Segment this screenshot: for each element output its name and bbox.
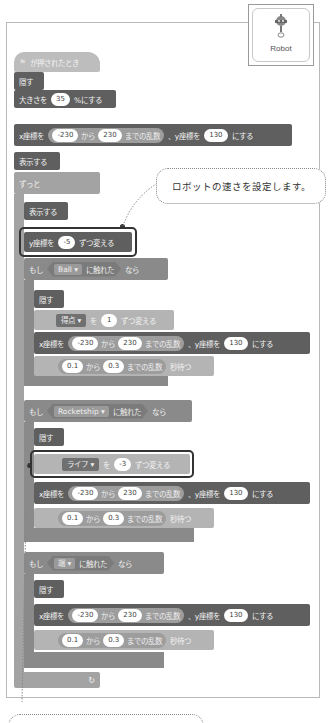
touching-edge-condition[interactable]: 端 ▾ に触れた <box>47 556 114 571</box>
goto-random-block-if3[interactable]: x座標を -230 から 230 までの乱数 、y座標を 130 にする <box>34 604 310 626</box>
random-to-input[interactable]: 230 <box>118 487 141 500</box>
random-reporter[interactable]: 0.1 から 0.3 までの乱数 <box>58 511 166 526</box>
if-rocketship-block[interactable]: もし Rocketship ▾ に触れた なら <box>24 400 192 422</box>
hide-block-if1[interactable]: 隠す <box>34 290 64 308</box>
var-dropdown-score[interactable]: 得点 ▾ <box>56 314 86 327</box>
wait-random-block-if2[interactable]: 0.1 から 0.3 までの乱数 秒待つ <box>34 508 214 528</box>
callout-bottom-partial <box>8 714 204 723</box>
goto-y-input[interactable]: 130 <box>204 129 227 142</box>
callout-speed-note: ロボットの速さを設定します。 <box>156 168 326 204</box>
random-made: までの乱数 <box>145 488 180 499</box>
goto-random-block-if1[interactable]: x座標を -230 から 230 までの乱数 、y座標を 130 にする <box>34 332 310 354</box>
random-made: までの乱数 <box>125 130 160 141</box>
sprite-card[interactable]: Robot <box>248 4 314 66</box>
callout-connector-bottom <box>10 462 30 722</box>
goto-y-label: 、y座標を <box>168 130 200 141</box>
touching-target-dropdown[interactable]: Rocketship ▾ <box>54 406 109 417</box>
loop-arrow-icon: ↻ <box>88 676 95 685</box>
random-reporter[interactable]: 0.1 から 0.3 までの乱数 <box>58 633 166 648</box>
show-block[interactable]: 表示する <box>14 152 60 170</box>
size-input[interactable]: 35 <box>51 93 70 106</box>
goto-random-block-if2[interactable]: x座標を -230 から 230 までの乱数 、y座標を 130 にする <box>34 482 310 504</box>
goto-x-label: x座標を <box>39 488 64 499</box>
show-block-2[interactable]: 表示する <box>24 202 68 220</box>
change-score-input[interactable]: 1 <box>101 314 117 327</box>
goto-y-label: 、y座標を <box>188 610 220 621</box>
callout-text: ロボットの速さを設定します。 <box>172 179 311 193</box>
touching-rocketship-condition[interactable]: Rocketship ▾ に触れた <box>47 404 148 419</box>
goto-suffix: にする <box>252 488 273 499</box>
random-reporter[interactable]: 0.1 から 0.3 までの乱数 <box>58 359 166 374</box>
random-kara: から <box>81 130 95 141</box>
forever-label: ずっと <box>19 178 40 189</box>
goto-y-input[interactable]: 130 <box>224 609 247 622</box>
wait-from-input[interactable]: 0.1 <box>62 512 83 525</box>
random-kara: から <box>101 488 115 499</box>
random-to-input[interactable]: 230 <box>98 129 121 142</box>
show-label: 表示する <box>19 156 47 167</box>
touching-label: に触れた <box>113 406 141 417</box>
random-reporter[interactable]: -230 から 230 までの乱数 <box>68 486 183 501</box>
if-ball-arm <box>24 280 34 372</box>
random-made: までの乱数 <box>127 635 162 646</box>
random-to-input[interactable]: 230 <box>118 337 141 350</box>
random-from-input[interactable]: -230 <box>72 337 98 350</box>
goto-y-label: 、y座標を <box>188 488 220 499</box>
target-edge: 端 <box>58 559 65 568</box>
goto-y-input[interactable]: 130 <box>224 487 247 500</box>
random-made: までの乱数 <box>145 338 180 349</box>
random-made: までの乱数 <box>127 513 162 524</box>
if-edge-block[interactable]: もし 端 ▾ に触れた なら <box>24 552 164 574</box>
highlight-change-life <box>30 450 194 478</box>
callout-connector-top <box>120 180 160 228</box>
wait-to-input[interactable]: 0.3 <box>103 512 124 525</box>
touching-ball-condition[interactable]: Ball ▾ に触れた <box>47 262 121 277</box>
hat-label: が押されたとき <box>30 57 79 68</box>
goto-suffix: にする <box>232 130 253 141</box>
green-flag-icon: ⚑ <box>19 58 26 67</box>
random-reporter[interactable]: -230 から 230 までの乱数 <box>68 608 183 623</box>
wait-random-block-if1[interactable]: 0.1 から 0.3 までの乱数 秒待つ <box>34 356 214 376</box>
wait-suffix: 秒待つ <box>170 635 191 646</box>
wait-from-input[interactable]: 0.1 <box>62 360 83 373</box>
hide-block[interactable]: 隠す <box>14 72 44 90</box>
robot-icon <box>272 13 290 41</box>
hide-label: 隠す <box>19 76 33 87</box>
hide-block-if2[interactable]: 隠す <box>34 428 64 446</box>
change-score-block[interactable]: 得点 ▾ を 1 ずつ変える <box>34 310 174 330</box>
touching-target-dropdown[interactable]: 端 ▾ <box>54 558 75 569</box>
random-to-input[interactable]: 230 <box>118 609 141 622</box>
if-label: もし <box>29 406 43 417</box>
goto-y-input[interactable]: 130 <box>224 337 247 350</box>
wait-random-block-if3[interactable]: 0.1 から 0.3 までの乱数 秒待つ <box>34 630 214 650</box>
random-from-input[interactable]: -230 <box>72 609 98 622</box>
wait-suffix: 秒待つ <box>170 513 191 524</box>
random-made: までの乱数 <box>145 610 180 621</box>
forever-block[interactable]: ずっと <box>14 172 100 194</box>
var-score: 得点 <box>61 316 75 325</box>
wait-to-input[interactable]: 0.3 <box>103 360 124 373</box>
touching-target-dropdown[interactable]: Ball ▾ <box>54 264 82 275</box>
if-edge-end <box>24 652 164 668</box>
random-made: までの乱数 <box>127 361 162 372</box>
sprite-thumbnail: Robot <box>252 8 310 62</box>
target-ball: Ball <box>58 265 72 274</box>
random-from-input[interactable]: -230 <box>52 129 78 142</box>
if-ball-block[interactable]: もし Ball ▾ に触れた なら <box>24 258 168 280</box>
wait-to-input[interactable]: 0.3 <box>103 634 124 647</box>
hide-label-if1: 隠す <box>39 294 53 305</box>
goto-random-block[interactable]: x座標を -230 から 230 までの乱数 、y座標を 130 にする <box>14 124 292 146</box>
show-label-2: 表示する <box>29 206 57 217</box>
when-flag-clicked-block[interactable]: ⚑ が押されたとき <box>14 52 100 72</box>
highlight-change-y <box>19 227 137 257</box>
set-size-block[interactable]: 大きさを 35 %にする <box>14 90 116 108</box>
random-from-input[interactable]: -230 <box>72 487 98 500</box>
wo-label: を <box>90 315 97 326</box>
goto-x-label: x座標を <box>39 610 64 621</box>
target-rocketship: Rocketship <box>58 407 99 416</box>
wait-from-input[interactable]: 0.1 <box>62 634 83 647</box>
hide-block-if3[interactable]: 隠す <box>34 580 64 598</box>
goto-suffix: にする <box>252 610 273 621</box>
random-reporter[interactable]: -230 から 230 までの乱数 <box>48 128 163 143</box>
random-reporter[interactable]: -230 から 230 までの乱数 <box>68 336 183 351</box>
